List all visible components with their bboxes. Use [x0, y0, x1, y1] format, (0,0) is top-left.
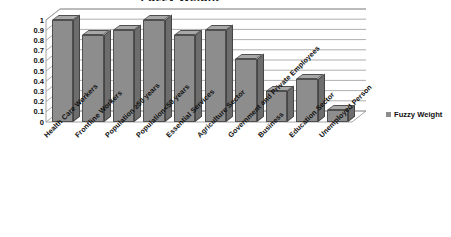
- x-axis-tick-label: Business: [256, 110, 286, 140]
- x-axis-tick-label: Population<50 years: [134, 82, 191, 139]
- x-axis-tick-label: Health Care Workers: [42, 82, 100, 140]
- chart-container: Fuzzy Weight 10.90.80.70.60.50.40.30.20.…: [0, 0, 451, 237]
- legend-label: Fuzzy Weight: [394, 110, 442, 119]
- legend-swatch-icon: [386, 112, 391, 117]
- x-axis-tick-label: Population ≥50 years: [103, 81, 162, 140]
- plot-area: 10.90.80.70.60.50.40.30.20.10 Health Car…: [0, 0, 451, 237]
- chart-legend: Fuzzy Weight: [386, 110, 442, 119]
- x-axis-labels: Health Care WorkersFrontline WorkersPopu…: [0, 0, 451, 237]
- x-axis-tick-label: Unemployed Person: [317, 83, 374, 140]
